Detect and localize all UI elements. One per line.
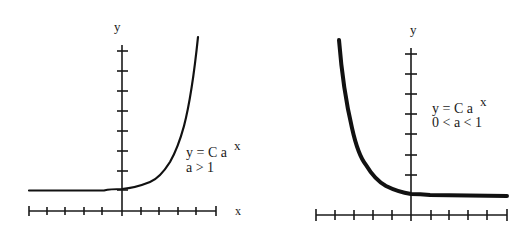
left-exponential-curve (29, 37, 198, 191)
left-graph: y x y = C a x a > 1 (29, 19, 241, 218)
left-x-axis-label: x (235, 204, 241, 218)
right-y-axis-label: y (410, 22, 417, 37)
left-condition: a > 1 (186, 160, 214, 175)
left-y-axis-label: y (114, 19, 121, 34)
left-equation: y = C a (186, 145, 228, 160)
left-equation-exponent: x (234, 138, 241, 153)
right-condition: 0 < a < 1 (432, 115, 482, 130)
right-graph: y y = C a x 0 < a < 1 (316, 22, 507, 221)
right-equation-exponent: x (480, 94, 487, 109)
exponential-graphs: y x y = C a x a > 1 (0, 0, 515, 235)
right-equation: y = C a (432, 101, 474, 116)
